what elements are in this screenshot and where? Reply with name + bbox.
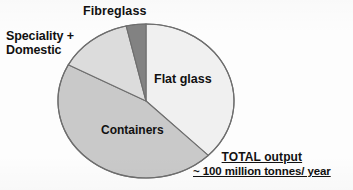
pie-label-flat-glass: Flat glass — [154, 72, 212, 86]
pie-label-fibreglass: Fibreglass — [83, 4, 147, 18]
total-output-annotation: TOTAL output ~ 100 million tonnes/ year — [193, 150, 331, 177]
total-output-title: TOTAL output — [193, 150, 331, 164]
pie-label-speciality-line2: Domestic — [6, 43, 74, 57]
pie-label-containers: Containers — [101, 124, 164, 137]
total-output-value: ~ 100 million tonnes/ year — [193, 165, 331, 177]
pie-chart-figure: Fibreglass Speciality +Domestic Flat gla… — [0, 0, 353, 190]
pie-label-speciality-line1: Speciality + — [6, 29, 74, 43]
pie-label-speciality-domestic: Speciality +Domestic — [6, 29, 74, 57]
